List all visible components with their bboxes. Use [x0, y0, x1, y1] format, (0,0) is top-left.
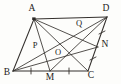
segment-AN: [34, 19, 98, 47]
point-label-P: P: [33, 41, 38, 51]
segment-BD: [13, 17, 107, 71]
point-label-C: C: [88, 71, 94, 81]
point-label-A: A: [29, 4, 36, 14]
segment-AB: [13, 19, 34, 71]
segment-AD: [34, 17, 107, 19]
point-label-D: D: [103, 4, 110, 14]
point-label-M: M: [46, 73, 54, 83]
point-label-N: N: [102, 40, 109, 50]
point-label-Q: Q: [76, 19, 82, 29]
point-label-B: B: [4, 68, 10, 78]
point-label-O: O: [55, 48, 61, 58]
geometry-figure: A D B C M N P O Q: [0, 0, 121, 84]
vertex-dot-A: [32, 17, 35, 20]
